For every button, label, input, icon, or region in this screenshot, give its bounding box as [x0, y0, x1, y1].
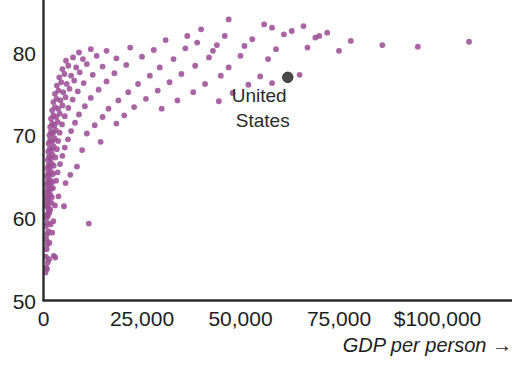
- data-point: [62, 113, 68, 119]
- data-point: [80, 56, 86, 62]
- data-point: [70, 55, 76, 61]
- x-tick-label: $100,000: [394, 307, 482, 330]
- data-point: [86, 221, 92, 227]
- y-tick-label: 50: [13, 290, 36, 313]
- data-point: [336, 48, 342, 54]
- data-point: [379, 42, 385, 48]
- data-point: [65, 105, 71, 111]
- data-point: [57, 161, 63, 167]
- data-point: [88, 46, 94, 52]
- data-point: [70, 97, 76, 103]
- data-point: [60, 66, 66, 72]
- x-tick-label: 50,000: [208, 307, 272, 330]
- data-point: [123, 62, 129, 68]
- data-point: [94, 53, 100, 59]
- data-point: [49, 230, 55, 236]
- data-point: [238, 53, 244, 59]
- data-point: [51, 163, 57, 169]
- data-point: [76, 112, 82, 118]
- x-tick-label: 75,000: [307, 307, 371, 330]
- data-point: [143, 96, 149, 102]
- data-point: [84, 131, 90, 137]
- data-point: [466, 39, 472, 45]
- data-point: [65, 136, 71, 142]
- data-point: [257, 74, 263, 80]
- data-point: [104, 79, 110, 85]
- data-point: [92, 122, 98, 128]
- data-point: [226, 17, 232, 23]
- data-point: [281, 31, 287, 37]
- data-point: [96, 87, 102, 93]
- data-point: [167, 79, 173, 85]
- data-point: [297, 72, 303, 78]
- data-point: [98, 139, 104, 145]
- data-point: [100, 64, 106, 70]
- data-point: [63, 94, 69, 100]
- data-point: [163, 37, 169, 43]
- x-tick-label: 0: [38, 307, 50, 330]
- data-point: [71, 78, 77, 84]
- data-point: [68, 128, 74, 134]
- data-point: [62, 145, 68, 151]
- data-point: [45, 205, 51, 211]
- data-point: [54, 146, 60, 152]
- data-point: [214, 42, 220, 48]
- data-point: [57, 111, 63, 117]
- data-point: [113, 121, 119, 127]
- data-point: [273, 46, 279, 52]
- data-point: [171, 56, 177, 62]
- data-point: [179, 71, 185, 77]
- data-point: [192, 63, 198, 69]
- data-point: [50, 185, 56, 191]
- data-point: [106, 106, 112, 112]
- data-point: [55, 169, 61, 175]
- data-point: [316, 33, 322, 39]
- x-tick-label: 25,000: [110, 307, 174, 330]
- data-point: [88, 95, 94, 101]
- scatter-plot-figure: 50607080 025,00050,00075,000$100,000 Uni…: [0, 0, 518, 365]
- data-point: [49, 194, 55, 200]
- data-point: [226, 64, 232, 70]
- data-point: [63, 180, 69, 186]
- plot-canvas: 50607080 025,00050,00075,000$100,000 Uni…: [0, 0, 518, 365]
- annotation-label-line2: States: [236, 110, 290, 131]
- data-point: [52, 155, 58, 161]
- data-point: [74, 164, 80, 170]
- data-point: [182, 45, 188, 51]
- data-point: [127, 45, 133, 51]
- data-point: [68, 73, 74, 79]
- data-point: [151, 47, 157, 53]
- data-point: [112, 70, 118, 76]
- data-point: [76, 50, 82, 56]
- data-point: [202, 81, 208, 87]
- data-point: [269, 25, 275, 31]
- data-point: [210, 48, 216, 54]
- data-point: [139, 54, 145, 60]
- data-point: [52, 203, 58, 209]
- data-point: [121, 112, 127, 118]
- data-point: [55, 138, 61, 144]
- y-tick-label: 60: [13, 207, 36, 230]
- data-point: [113, 55, 119, 61]
- data-point: [64, 81, 70, 87]
- data-point: [147, 73, 153, 79]
- data-point: [218, 73, 224, 79]
- data-point: [61, 71, 67, 77]
- data-point: [100, 114, 106, 120]
- data-point: [190, 89, 196, 95]
- data-point: [50, 218, 56, 224]
- annotation-label-line1: United: [232, 85, 287, 106]
- data-point: [324, 30, 330, 36]
- data-point: [61, 203, 67, 209]
- data-point: [249, 36, 255, 42]
- data-point: [56, 74, 62, 80]
- data-point: [81, 80, 87, 86]
- y-tick-label: 80: [13, 42, 36, 65]
- data-point: [57, 130, 63, 136]
- data-point: [194, 40, 200, 46]
- data-point: [206, 55, 212, 61]
- data-point: [222, 33, 228, 39]
- data-point: [63, 58, 69, 64]
- data-point: [47, 240, 53, 246]
- data-point: [60, 153, 66, 159]
